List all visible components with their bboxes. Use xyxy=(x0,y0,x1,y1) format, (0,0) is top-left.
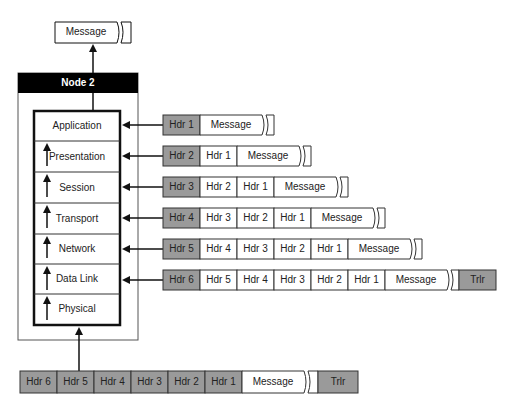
packet-trailer: Trlr xyxy=(459,270,496,290)
packet-cell: Hdr 1 xyxy=(200,146,237,166)
layer-transport: Transport xyxy=(34,213,120,224)
frame-cell: Hdr 1 xyxy=(205,372,242,392)
packet-cell: Hdr 3 xyxy=(200,208,237,228)
top-message-label: Message xyxy=(55,26,117,37)
frame-cell: Hdr 4 xyxy=(94,372,131,392)
packet-cell: Hdr 1 xyxy=(237,177,274,197)
frame-message: Message xyxy=(242,372,304,392)
layer-application: Application xyxy=(34,120,120,131)
packet-cell: Hdr 2 xyxy=(311,270,348,290)
layer-presentation: Presentation xyxy=(34,151,120,162)
packet-cell: Hdr 5 xyxy=(200,270,237,290)
layer-session: Session xyxy=(34,182,120,193)
packet-cell: Hdr 4 xyxy=(163,208,200,228)
packet-message: Message xyxy=(200,115,262,135)
layer-physical: Physical xyxy=(34,303,120,314)
packet-cell: Hdr 1 xyxy=(274,208,311,228)
packet-message: Message xyxy=(385,270,447,290)
node-title: Node 2 xyxy=(18,73,138,93)
diagram-canvas xyxy=(0,0,519,407)
frame-cell: Hdr 5 xyxy=(57,372,94,392)
packet-cell: Hdr 2 xyxy=(274,239,311,259)
packet-cell: Hdr 6 xyxy=(163,270,200,290)
packet-cell: Hdr 1 xyxy=(311,239,348,259)
packet-message: Message xyxy=(311,208,373,228)
frame-cell: Hdr 2 xyxy=(168,372,205,392)
packet-cell: Hdr 4 xyxy=(237,270,274,290)
packet-message: Message xyxy=(348,239,410,259)
packet-cell: Hdr 4 xyxy=(200,239,237,259)
packet-message: Message xyxy=(237,146,299,166)
packet-cell: Hdr 3 xyxy=(163,177,200,197)
layer-data-link: Data Link xyxy=(34,273,120,284)
frame-cell: Hdr 3 xyxy=(131,372,168,392)
packet-cell: Hdr 1 xyxy=(348,270,385,290)
frame-trailer: Trlr xyxy=(318,372,358,392)
packet-cell: Hdr 3 xyxy=(274,270,311,290)
packet-cell: Hdr 3 xyxy=(237,239,274,259)
packet-cell: Hdr 2 xyxy=(200,177,237,197)
packet-cell: Hdr 2 xyxy=(163,146,200,166)
packet-message: Message xyxy=(274,177,336,197)
packet-cell: Hdr 1 xyxy=(163,115,200,135)
packet-cell: Hdr 2 xyxy=(237,208,274,228)
packet-cell: Hdr 5 xyxy=(163,239,200,259)
layer-network: Network xyxy=(34,243,120,254)
frame-cell: Hdr 6 xyxy=(20,372,57,392)
